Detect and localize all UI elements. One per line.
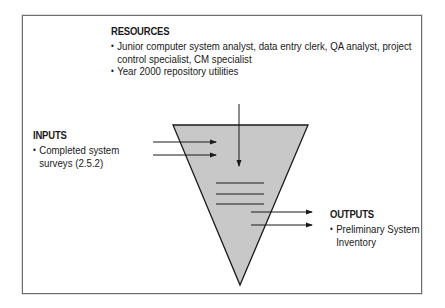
inputs-heading: INPUTS [33,129,67,141]
outputs-list: Preliminary System Inventory [330,223,432,248]
resources-item-line: control specialist, CM specialist [117,53,411,66]
resources-item-line: Junior computer system analyst, data ent… [117,40,411,53]
outputs-item: Preliminary System Inventory [330,223,420,248]
resources-heading: RESOURCES [111,25,169,37]
inputs-item-line: surveys (2.5.2) [39,157,119,170]
outputs-heading: OUTPUTS [330,208,374,220]
inputs-item: Completed system surveys (2.5.2) [33,144,119,169]
resources-item: Junior computer system analyst, data ent… [111,40,411,65]
resources-item: Year 2000 repository utilities [111,65,411,78]
funnel-shape [173,125,308,285]
resources-list: Junior computer system analyst, data ent… [111,40,445,78]
inputs-item-line: Completed system [39,144,119,157]
resources-item-line: Year 2000 repository utilities [117,65,411,78]
outputs-item-line: Inventory [336,236,419,249]
inputs-list: Completed system surveys (2.5.2) [33,144,131,169]
outputs-item-line: Preliminary System [336,223,419,236]
